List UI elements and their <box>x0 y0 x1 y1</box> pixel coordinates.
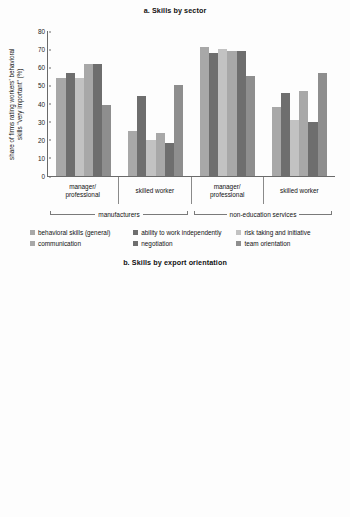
legend-label: communication <box>38 240 81 247</box>
bar-a-g0-s1 <box>66 73 75 176</box>
category-label: manager/ professional <box>192 177 264 204</box>
chart-a-title: a. Skills by sector <box>0 6 350 15</box>
bar-a-g3-s0 <box>272 107 281 176</box>
legend-label: negotiation <box>141 240 172 247</box>
legend-swatch-icon <box>236 241 241 246</box>
legend-swatch-icon <box>30 241 35 246</box>
legend-item: ability to work independently <box>133 229 236 236</box>
legend-swatch-icon <box>236 230 241 235</box>
bar-group <box>48 31 120 176</box>
chart-a-supercategory-axis: manufacturersnon-education services <box>47 206 335 222</box>
y-tick-label: 20 <box>23 136 48 143</box>
bar-a-g2-s2 <box>218 49 227 176</box>
bar-group <box>192 31 264 176</box>
y-tick-label: 30 <box>23 118 48 125</box>
chart-a-plot-area: 01020304050607080 <box>47 31 335 177</box>
legend-label: ability to work independently <box>141 229 221 236</box>
bar-a-g2-s4 <box>237 51 246 176</box>
bar-a-g1-s4 <box>165 143 174 176</box>
legend-label: team orientation <box>244 240 290 247</box>
category-label: manager/ professional <box>47 177 119 204</box>
y-tick-label: 10 <box>23 154 48 161</box>
legend-label: behavioral skills (general) <box>38 229 110 236</box>
y-tick-label: 80 <box>23 28 48 35</box>
bar-a-g3-s5 <box>318 73 327 176</box>
bar-a-g1-s0 <box>128 131 137 176</box>
y-tick-label: 40 <box>23 100 48 107</box>
chart-page: a. Skills by sector share of firms ratin… <box>0 0 350 517</box>
bar-a-g0-s4 <box>93 64 102 176</box>
chart-panel-a: a. Skills by sector share of firms ratin… <box>0 4 350 256</box>
bar-a-g0-s5 <box>102 105 111 176</box>
bar-group <box>263 31 335 176</box>
category-label: skilled worker <box>264 177 335 204</box>
chart-a-y-axis-label: share of firms rating workers' behaviora… <box>8 34 24 174</box>
legend-swatch-icon <box>133 230 138 235</box>
bar-group <box>120 31 192 176</box>
legend-item: risk taking and initiative <box>236 229 339 236</box>
chart-b-title: b. Skills by export orientation <box>0 258 350 267</box>
legend-item: team orientation <box>236 240 339 247</box>
legend-item: behavioral skills (general) <box>30 229 133 236</box>
legend-label: risk taking and initiative <box>244 229 310 236</box>
bar-a-g3-s3 <box>299 91 308 176</box>
bar-a-g0-s3 <box>84 64 93 176</box>
bar-a-g2-s1 <box>209 53 218 176</box>
bar-a-g3-s2 <box>290 120 299 176</box>
bar-a-g0-s0 <box>56 78 65 176</box>
chart-panel-b: b. Skills by export orientation share of… <box>0 258 350 514</box>
y-tick-label: 0 <box>23 173 48 180</box>
bar-a-g3-s4 <box>308 122 317 176</box>
bar-a-g2-s0 <box>200 47 209 176</box>
legend-item: negotiation <box>133 240 236 247</box>
bar-a-g2-s5 <box>246 76 255 176</box>
bar-a-g1-s3 <box>156 133 165 177</box>
bar-a-g2-s3 <box>227 51 236 176</box>
bar-a-g1-s2 <box>146 140 155 176</box>
y-tick-label: 60 <box>23 64 48 71</box>
chart-a-category-axis: manager/ professionalskilled workermanag… <box>47 177 335 204</box>
supercategory-label: manufacturers <box>95 211 143 218</box>
supercategory-bracket: manufacturers <box>47 206 191 222</box>
chart-a-legend: behavioral skills (general)ability to wo… <box>30 229 340 250</box>
supercategory-label: non-education services <box>227 211 300 218</box>
y-tick-label: 70 <box>23 46 48 53</box>
bar-a-g1-s1 <box>137 96 146 176</box>
category-label: skilled worker <box>119 177 191 204</box>
legend-swatch-icon <box>30 230 35 235</box>
legend-swatch-icon <box>133 241 138 246</box>
bar-a-g3-s1 <box>281 93 290 176</box>
chart-a-bar-groups <box>48 31 335 176</box>
legend-item: communication <box>30 240 133 247</box>
bar-a-g0-s2 <box>75 78 84 176</box>
bar-a-g1-s5 <box>174 85 183 176</box>
y-tick-label: 50 <box>23 82 48 89</box>
supercategory-bracket: non-education services <box>191 206 335 222</box>
